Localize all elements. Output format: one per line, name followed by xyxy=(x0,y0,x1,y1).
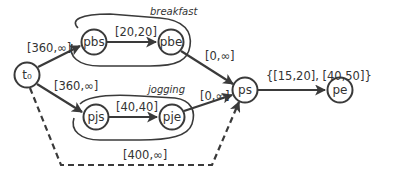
edge-label-pje-ps: [0,∞] xyxy=(200,89,230,103)
node-ps: ps xyxy=(233,78,258,103)
jogging-group-label: jogging xyxy=(146,84,185,95)
diagram-svg: t₀ pbs pbe pjs pje ps pe breakfast joggi… xyxy=(0,0,393,179)
edge-label-ps-pe: {[15,20], [40,50]} xyxy=(266,69,372,83)
node-t0: t₀ xyxy=(15,63,40,88)
svg-text:t₀: t₀ xyxy=(22,68,32,82)
node-pbs: pbs xyxy=(82,30,107,55)
breakfast-group-label: breakfast xyxy=(150,6,198,17)
node-pje: pje xyxy=(160,105,185,130)
svg-text:pbe: pbe xyxy=(160,35,183,49)
node-pbe: pbe xyxy=(159,30,184,55)
svg-text:ps: ps xyxy=(238,83,252,97)
svg-text:pjs: pjs xyxy=(87,110,104,124)
edge-label-t0-ps-dashed: [400,∞] xyxy=(123,148,167,162)
edge-label-pjs-pje: [40,40] xyxy=(116,100,158,114)
node-pjs: pjs xyxy=(84,105,109,130)
edge-label-pbe-ps: [0,∞] xyxy=(205,49,235,63)
edge-label-pbs-pbe: [20,20] xyxy=(115,25,157,39)
svg-text:pbs: pbs xyxy=(83,35,105,49)
edge-label-t0-pjs: [360,∞] xyxy=(54,79,98,93)
svg-text:pe: pe xyxy=(333,83,348,97)
svg-text:pje: pje xyxy=(163,110,181,124)
edge-label-t0-pbs: [360,∞] xyxy=(27,41,71,55)
temporal-constraint-diagram: t₀ pbs pbe pjs pje ps pe breakfast joggi… xyxy=(0,0,393,179)
